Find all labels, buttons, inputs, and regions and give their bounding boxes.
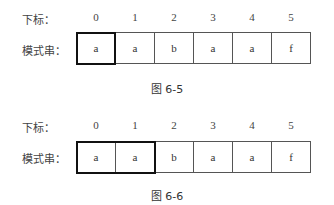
- index-label: 下标：: [22, 11, 55, 27]
- index-3: 3: [193, 11, 233, 23]
- index-4: 4: [232, 119, 272, 131]
- pattern-cell: a: [193, 32, 233, 64]
- pattern-cell: b: [154, 32, 194, 64]
- index-5: 5: [271, 119, 311, 131]
- pattern-cell: a: [232, 141, 272, 173]
- index-label: 下标：: [22, 119, 55, 135]
- pattern-cell: a: [115, 32, 155, 64]
- figure-caption: 图 6-6: [0, 187, 334, 203]
- index-2: 2: [154, 11, 194, 23]
- pattern-label: 模式串：: [22, 42, 66, 58]
- pattern-cell: b: [154, 141, 194, 173]
- index-1: 1: [115, 119, 155, 131]
- pattern-cell: f: [271, 32, 311, 64]
- pattern-cell: a: [76, 32, 116, 64]
- pattern-label: 模式串：: [22, 150, 66, 166]
- pattern-cell: f: [271, 141, 311, 173]
- index-3: 3: [193, 119, 233, 131]
- pattern-cell: a: [193, 141, 233, 173]
- pattern-string-row: a a b a a f: [76, 32, 311, 64]
- pattern-cell: a: [76, 141, 116, 173]
- index-5: 5: [271, 11, 311, 23]
- index-4: 4: [232, 11, 272, 23]
- index-1: 1: [115, 11, 155, 23]
- index-0: 0: [76, 11, 116, 23]
- pattern-cell: a: [115, 141, 155, 173]
- index-2: 2: [154, 119, 194, 131]
- pattern-cell: a: [232, 32, 272, 64]
- pattern-string-row: a a b a a f: [76, 141, 311, 173]
- figure-caption: 图 6-5: [0, 80, 334, 96]
- index-0: 0: [76, 119, 116, 131]
